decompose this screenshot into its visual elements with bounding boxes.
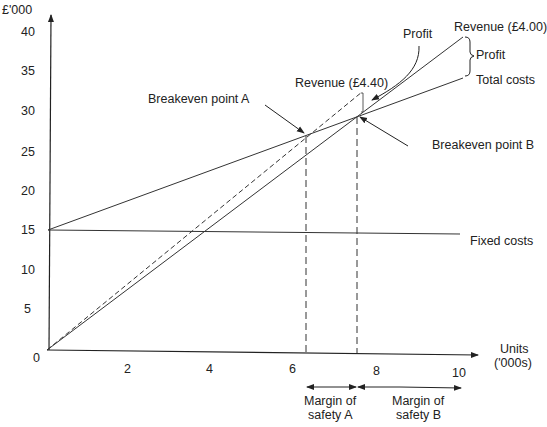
- mos-a-label-line2: safety A: [308, 408, 352, 422]
- y-tick: 10: [21, 263, 35, 277]
- origin-label: 0: [33, 351, 40, 365]
- y-tick: 25: [21, 145, 35, 159]
- x-tick: 2: [124, 362, 131, 376]
- total-costs-line: [48, 78, 463, 230]
- x-axis: [47, 350, 478, 355]
- revenue-400-line: [47, 37, 463, 350]
- y-tick: 15: [21, 223, 35, 237]
- x-tick: 10: [452, 366, 466, 380]
- mos-a-label-line1: Margin of: [304, 394, 356, 408]
- profit-brace-label: Profit: [476, 48, 505, 62]
- revenue-440-line: [47, 92, 362, 350]
- y-tick: 35: [21, 64, 35, 78]
- breakeven-a-label: Breakeven point A: [148, 92, 249, 106]
- fixed-costs-label: Fixed costs: [470, 234, 533, 248]
- y-axis-unit: £'000: [2, 3, 32, 17]
- x-tick: 6: [289, 362, 296, 376]
- y-axis: [49, 15, 51, 350]
- profit-brace: [465, 37, 474, 76]
- fixed-costs-line: [48, 230, 460, 234]
- x-axis-unit-line1: Units: [500, 342, 528, 356]
- mos-b-label-line2: safety B: [396, 408, 441, 422]
- y-tick: 30: [21, 104, 35, 118]
- profit-top-label: Profit: [403, 27, 432, 41]
- breakeven-b-label: Breakeven point B: [432, 138, 534, 152]
- y-tick: 40: [21, 25, 35, 39]
- revenue-400-label: Revenue (£4.00): [454, 20, 547, 34]
- x-axis-unit-line2: ('000s): [494, 356, 532, 370]
- profit-curve-arrow: [372, 46, 419, 100]
- mos-b-label-line1: Margin of: [392, 394, 444, 408]
- x-tick: 4: [206, 362, 213, 376]
- breakeven-b-arrow: [360, 117, 408, 146]
- y-tick: 5: [24, 302, 31, 316]
- x-tick: 8: [373, 364, 380, 378]
- breakeven-a-arrow: [265, 105, 304, 133]
- mos-b-arrow-right: [400, 387, 461, 388]
- profit-gap-bracket: [361, 93, 363, 112]
- y-tick: 20: [21, 184, 35, 198]
- revenue-440-label: Revenue (£4.40): [295, 76, 388, 90]
- total-costs-label: Total costs: [476, 73, 535, 87]
